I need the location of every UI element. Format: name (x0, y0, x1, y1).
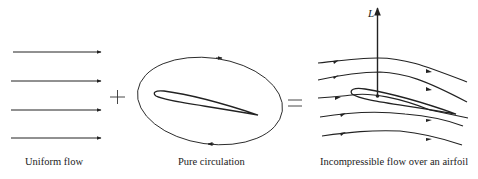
flow-direction-marker (335, 97, 341, 100)
flow-direction-marker (340, 132, 346, 136)
flow-direction-marker (426, 138, 432, 141)
flow-direction-marker (426, 69, 432, 73)
superposition-diagram: L (0, 0, 478, 179)
flow-direction-marker (333, 75, 339, 79)
caption-combined-flow: Incompressible flow over an airfoil (320, 156, 468, 167)
flow-direction-marker (426, 119, 432, 122)
streamline (318, 58, 467, 82)
plus-sign (110, 90, 125, 104)
caption-pure-circulation: Pure circulation (178, 156, 245, 167)
caption-uniform-flow: Uniform flow (25, 156, 83, 167)
flow-direction-marker (426, 87, 432, 91)
flow-direction-marker (333, 60, 339, 64)
equals-sign (288, 100, 302, 106)
lift-origin-dot (376, 94, 380, 98)
circulation-panel (132, 48, 289, 153)
streamline (318, 72, 467, 102)
lift-label: L (367, 7, 374, 19)
uniform-flow-panel (11, 52, 101, 138)
airfoil (154, 91, 258, 115)
combined-flow-panel: L (318, 7, 468, 145)
